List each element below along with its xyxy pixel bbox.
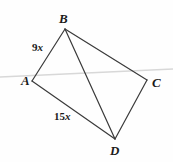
vertex-label-c: C: [152, 76, 161, 89]
segment-ab: [32, 29, 65, 81]
measure-ad-number: 15: [54, 110, 65, 122]
measure-label-ad: 15x: [54, 111, 71, 122]
measure-ad-variable: x: [65, 110, 71, 122]
segment-bd-diagonal: [65, 29, 115, 139]
segment-ad: [32, 81, 115, 139]
vertex-label-a: A: [21, 74, 30, 87]
vertex-label-b: B: [59, 12, 68, 25]
measure-label-ab: 9x: [32, 42, 43, 53]
vertex-label-d: D: [110, 144, 119, 157]
measure-ab-variable: x: [38, 41, 44, 53]
segment-cd: [115, 80, 147, 139]
geometry-figure: B A C D 9x 15x: [0, 0, 173, 162]
